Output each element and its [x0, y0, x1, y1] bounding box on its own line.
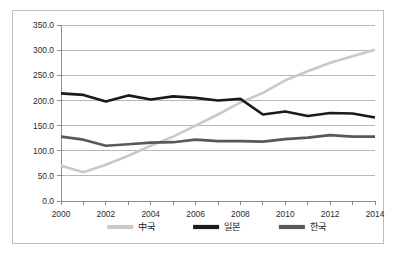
y-tick-label: 50.0: [38, 171, 55, 181]
y-tick-label: 0.0: [42, 196, 54, 206]
y-tick-label: 300.0: [33, 45, 54, 55]
y-axis: [57, 25, 61, 201]
x-axis: [61, 201, 375, 205]
y-tick-label: 200.0: [33, 96, 54, 106]
x-tick-label: 2010: [276, 209, 295, 219]
x-tick-label: 2002: [97, 209, 116, 219]
series-line: [61, 135, 375, 146]
series-line: [61, 50, 375, 173]
legend-label: 일본: [224, 222, 240, 232]
legend-item[interactable]: 일본: [193, 222, 240, 232]
legend-label: 한국: [310, 222, 326, 232]
chart-legend: 中국일본한국: [107, 221, 326, 232]
y-tick-label: 150.0: [33, 121, 54, 131]
x-tick-label: 2006: [186, 209, 205, 219]
legend-item[interactable]: 한국: [279, 222, 326, 232]
x-tick-label: 2012: [321, 209, 340, 219]
legend-label: 中국: [138, 221, 155, 232]
data-series: [61, 50, 375, 173]
x-tick-label: 2008: [231, 209, 250, 219]
chart-frame: 0.050.0100.0150.0200.0250.0300.0350.0 20…: [12, 10, 384, 244]
y-tick-label: 100.0: [33, 146, 54, 156]
x-tick-labels: 20002002200420062008201020122014: [52, 209, 385, 219]
x-tick-label: 2014: [366, 209, 385, 219]
legend-item[interactable]: 中국: [107, 221, 155, 232]
x-tick-label: 2004: [141, 209, 160, 219]
y-tick-label: 350.0: [33, 20, 54, 30]
y-tick-labels: 0.050.0100.0150.0200.0250.0300.0350.0: [33, 20, 54, 206]
line-chart: 0.050.0100.0150.0200.0250.0300.0350.0 20…: [13, 11, 385, 245]
y-tick-label: 250.0: [33, 70, 54, 80]
x-tick-label: 2000: [52, 209, 71, 219]
